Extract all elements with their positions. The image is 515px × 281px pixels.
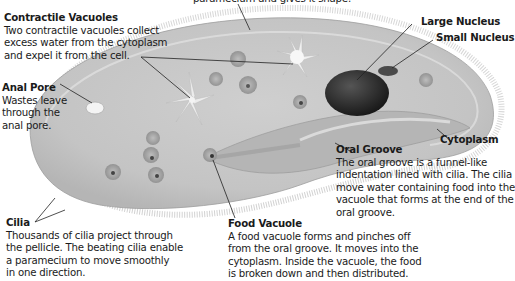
label-cytoplasm: Cytoplasm	[440, 134, 499, 145]
label-food-vacuole: Food Vacuole A food vacuole forms and pi…	[228, 218, 421, 281]
label-small-nucleus: Small Nucleus	[436, 32, 514, 43]
large-nucleus-shape	[325, 70, 389, 116]
label-large-nucleus: Large Nucleus	[421, 16, 500, 27]
paramecium-diagram: paramecium and gives it shape. Contracti…	[0, 0, 515, 281]
label-anal-pore: Anal Pore Wastes leave through the anal …	[2, 82, 67, 132]
label-cilia: Cilia Thousands of cilia project through…	[6, 217, 183, 280]
label-title: Contractile Vacuoles	[4, 12, 167, 25]
pellicle-caption-fragment: paramecium and gives it shape.	[193, 0, 351, 4]
anal-pore-shape	[86, 102, 104, 114]
label-oral-groove: Oral Groove The oral groove is a funnel-…	[336, 144, 515, 220]
label-contractile-vacuoles: Contractile Vacuoles Two contractile vac…	[4, 12, 167, 62]
small-nucleus-shape	[378, 66, 398, 76]
